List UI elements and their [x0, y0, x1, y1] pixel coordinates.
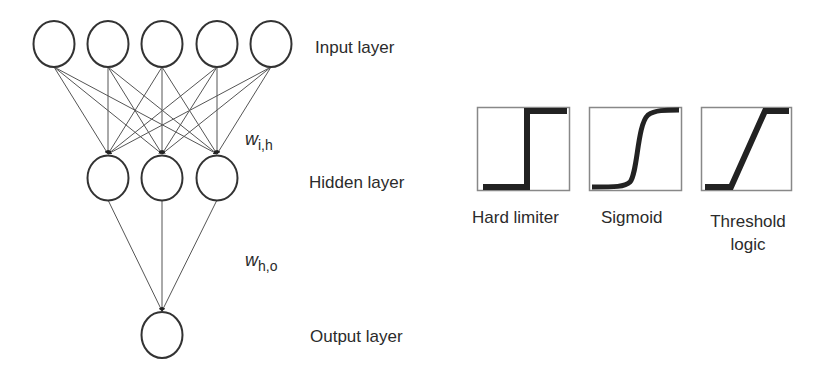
threshold-logic-label: Threshold logic [703, 210, 793, 256]
weight-symbol: w [245, 250, 258, 270]
weight-input-hidden-label: wi,h [245, 130, 273, 148]
input-node [142, 21, 183, 67]
weight-subscript: h,o [258, 258, 277, 274]
weight-hidden-output-label: wh,o [245, 251, 277, 269]
input-layer-nodes [34, 21, 292, 67]
input-node [34, 21, 75, 67]
weight-symbol: w [245, 129, 258, 149]
neural-network-diagram [0, 0, 821, 373]
output-layer-label: Output layer [310, 328, 403, 345]
input-layer-label: Input layer [315, 39, 394, 56]
output-node [142, 312, 183, 358]
input-node [197, 21, 238, 67]
hidden-node [88, 156, 129, 201]
input-node [88, 21, 129, 67]
input-node [251, 21, 292, 67]
threshold-label-line2: logic [703, 233, 793, 256]
threshold-label-line1: Threshold [703, 210, 793, 233]
hidden-node [142, 156, 183, 201]
threshold-logic-plot [702, 108, 792, 191]
hidden-node [197, 156, 238, 201]
hard-limiter-plot [478, 108, 570, 191]
sigmoid-plot [590, 108, 682, 191]
output-layer-nodes [142, 312, 183, 358]
input-hidden-connections [54, 67, 271, 154]
weight-subscript: i,h [258, 137, 273, 153]
sigmoid-label: Sigmoid [601, 206, 662, 229]
hard-limiter-label: Hard limiter [472, 206, 559, 229]
hidden-layer-label: Hidden layer [309, 174, 404, 191]
hidden-output-connections [108, 200, 217, 311]
hidden-layer-nodes [88, 156, 238, 201]
